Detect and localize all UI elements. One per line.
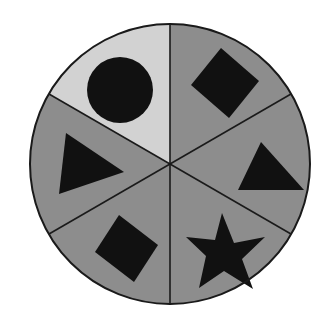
shape-wheel-diagram bbox=[0, 0, 335, 324]
figure-root bbox=[0, 0, 335, 324]
shape-circle-top-left[interactable] bbox=[87, 57, 153, 123]
